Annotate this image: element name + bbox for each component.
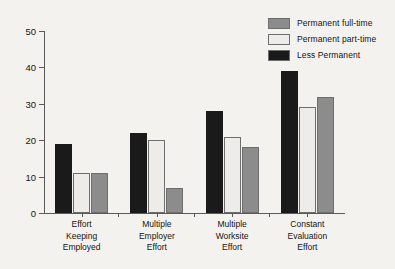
bar <box>317 97 334 213</box>
category-label-line: Evaluation <box>288 231 328 243</box>
category-label-line: Effort <box>139 242 175 254</box>
bar-group: ConstantEvaluationEffort <box>270 31 345 213</box>
bar <box>299 107 316 213</box>
bar-group: MultipleEmployerEffort <box>119 31 194 213</box>
category-label-line: Constant <box>288 219 328 231</box>
category-label-line: Multiple <box>139 219 175 231</box>
y-axis-label: 30 <box>25 98 36 109</box>
category-label-line: Employer <box>139 231 175 243</box>
category-label-line: Employed <box>63 242 101 254</box>
category-label-line: Keeping <box>63 231 101 243</box>
bar-group: EffortKeepingEmployed <box>44 31 119 213</box>
x-axis-tick <box>82 213 83 217</box>
x-axis-tick <box>307 213 308 217</box>
x-axis-tick <box>157 213 158 217</box>
legend-item: Permanent full-time <box>268 17 376 29</box>
y-axis-label: 40 <box>25 62 36 73</box>
category-label-line: Effort <box>63 219 101 231</box>
y-axis-label: 10 <box>25 171 36 182</box>
bar <box>224 137 241 213</box>
bar <box>206 111 223 213</box>
bar-group-bars <box>270 31 345 213</box>
x-axis-line <box>44 213 345 214</box>
x-axis-category-label: ConstantEvaluationEffort <box>288 219 328 254</box>
bar-chart: Permanent full-timePermanent part-timeLe… <box>0 0 395 269</box>
plot-area: 01020304050 EffortKeepingEmployedMultipl… <box>44 31 345 213</box>
x-axis-category-label: EffortKeepingEmployed <box>63 219 101 254</box>
x-axis-group-separator-tick <box>118 213 119 217</box>
bar <box>73 173 90 213</box>
bar-group: MultipleWorksiteEffort <box>195 31 270 213</box>
y-axis-label: 20 <box>25 135 36 146</box>
bar <box>148 140 165 213</box>
x-axis-category-label: MultipleWorksiteEffort <box>216 219 249 254</box>
bar <box>242 147 259 213</box>
bar <box>166 188 183 213</box>
bar <box>55 144 72 213</box>
bar <box>130 133 147 213</box>
y-axis-label: 0 <box>31 208 36 219</box>
y-axis-tick <box>39 213 44 214</box>
x-axis-group-separator-tick <box>194 213 195 217</box>
bar <box>91 173 108 213</box>
category-label-line: Effort <box>216 242 249 254</box>
x-axis-category-label: MultipleEmployerEffort <box>139 219 175 254</box>
legend-swatch-icon <box>268 18 290 29</box>
category-label-line: Worksite <box>216 231 249 243</box>
x-axis-group-separator-tick <box>269 213 270 217</box>
bar-group-bars <box>195 31 270 213</box>
bar <box>281 71 298 213</box>
x-axis-tick <box>232 213 233 217</box>
bar-groups: EffortKeepingEmployedMultipleEmployerEff… <box>44 31 345 213</box>
bar-group-bars <box>119 31 194 213</box>
legend-label: Permanent full-time <box>297 18 373 28</box>
category-label-line: Effort <box>288 242 328 254</box>
category-label-line: Multiple <box>216 219 249 231</box>
bar-group-bars <box>44 31 119 213</box>
y-axis-label: 50 <box>25 26 36 37</box>
